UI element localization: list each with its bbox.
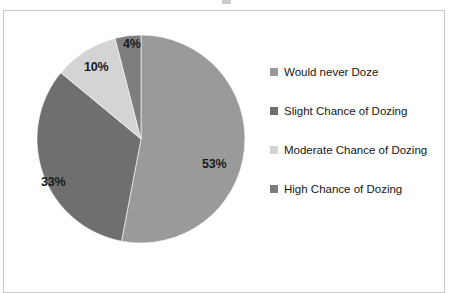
legend-swatch-icon <box>270 107 278 115</box>
slice-label-slight-chance: 33% <box>41 175 65 189</box>
legend-item-label: Slight Chance of Dozing <box>284 105 407 117</box>
legend-swatch-icon <box>270 68 278 76</box>
slice-label-would-never-doze: 53% <box>202 157 226 171</box>
pie-slice-group <box>37 35 245 243</box>
slice-label-high-chance: 4% <box>123 37 141 51</box>
legend-item-label: Moderate Chance of Dozing <box>284 144 427 156</box>
legend-item-label: Would never Doze <box>284 66 378 78</box>
legend-item-label: High Chance of Dozing <box>284 183 402 195</box>
legend-item-slight-chance-of-dozing[interactable]: Slight Chance of Dozing <box>270 105 448 117</box>
slice-label-moderate-chance: 10% <box>84 60 108 74</box>
legend-item-moderate-chance-of-dozing[interactable]: Moderate Chance of Dozing <box>270 144 448 156</box>
legend-swatch-icon <box>270 185 278 193</box>
legend-item-high-chance-of-dozing[interactable]: High Chance of Dozing <box>270 183 448 195</box>
legend-item-would-never-doze[interactable]: Would never Doze <box>270 66 448 78</box>
legend-swatch-icon <box>270 146 278 154</box>
chart-legend: Would never Doze Slight Chance of Dozing… <box>270 66 448 222</box>
